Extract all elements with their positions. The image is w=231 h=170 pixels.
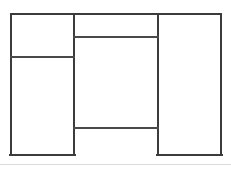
right-full-height-panel	[158, 14, 221, 155]
left-bottom-panel	[11, 57, 74, 155]
middle-main-panel	[74, 37, 158, 128]
wireframe-canvas	[0, 0, 231, 170]
middle-bottom-open-area	[74, 128, 158, 155]
left-top-panel	[11, 14, 74, 57]
middle-top-strip	[74, 14, 158, 37]
